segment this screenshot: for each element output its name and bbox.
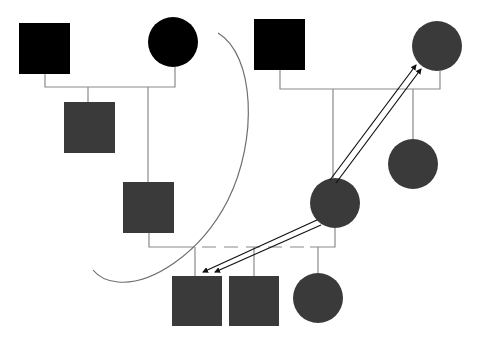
individual-I-4-female-circle (412, 21, 462, 71)
individual-II-3-female-circle (310, 178, 360, 228)
arrow-to-III-1 (203, 220, 321, 272)
individual-III-3-female-circle (293, 273, 343, 323)
individual-I-1-male-square (19, 23, 70, 74)
individual-I-3-male-square (254, 19, 305, 70)
mating-line-gen2 (149, 228, 335, 276)
individual-II-4-female-circle (388, 139, 438, 189)
individual-III-1-male-square (172, 276, 222, 326)
individual-II-1-male-square (64, 102, 115, 153)
individual-II-2-male-square (123, 182, 174, 233)
individual-I-2-female-circle (148, 17, 198, 67)
individual-III-2-male-square (229, 276, 279, 326)
boundary-curve (93, 33, 248, 282)
pedigree-diagram (0, 0, 482, 340)
